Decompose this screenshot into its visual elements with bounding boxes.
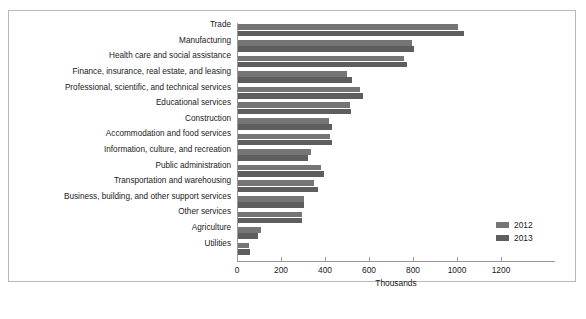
category-label-row: Manufacturing bbox=[11, 33, 235, 49]
category-label: Construction bbox=[185, 114, 231, 123]
bar-group bbox=[238, 117, 555, 133]
bar-group bbox=[238, 148, 555, 164]
x-tick bbox=[413, 257, 414, 262]
bar-2013 bbox=[238, 109, 351, 115]
bar-2013 bbox=[238, 31, 464, 37]
x-tick-label: 0 bbox=[235, 265, 240, 275]
legend-swatch-icon bbox=[496, 235, 509, 241]
category-label-row: Business, building, and other support se… bbox=[11, 189, 235, 205]
bar-group bbox=[238, 70, 555, 86]
category-label-column: TradeManufacturingHealth care and social… bbox=[11, 17, 235, 255]
bar-2012 bbox=[238, 243, 249, 249]
legend-label: 2012 bbox=[514, 220, 533, 230]
category-label-row: Health care and social assistance bbox=[11, 48, 235, 64]
bar-2013 bbox=[238, 124, 332, 130]
bar-2013 bbox=[238, 249, 250, 255]
category-label: Professional, scientific, and technical … bbox=[65, 83, 231, 92]
legend-label: 2013 bbox=[514, 233, 533, 243]
category-label: Trade bbox=[210, 20, 231, 29]
bar-2012 bbox=[238, 212, 302, 218]
bar-2012 bbox=[238, 118, 329, 124]
plot-area: Thousands 020040060080010001200 20122013 bbox=[237, 17, 567, 283]
category-label-row: Professional, scientific, and technical … bbox=[11, 79, 235, 95]
category-label-row: Finance, insurance, real estate, and lea… bbox=[11, 64, 235, 80]
category-label: Information, culture, and recreation bbox=[104, 145, 231, 154]
bar-2013 bbox=[238, 155, 308, 161]
bar-group bbox=[238, 85, 555, 101]
category-label-row: Other services bbox=[11, 204, 235, 220]
bar-2013 bbox=[238, 93, 363, 99]
category-label: Educational services bbox=[156, 98, 231, 107]
bar-group bbox=[238, 54, 555, 70]
category-label-row: Construction bbox=[11, 111, 235, 127]
bar-2012 bbox=[238, 71, 347, 77]
bar-2012 bbox=[238, 149, 311, 155]
legend-item-2013[interactable]: 2013 bbox=[496, 233, 533, 243]
chart-legend: 20122013 bbox=[496, 220, 533, 246]
x-tick bbox=[237, 257, 238, 262]
bar-2012 bbox=[238, 134, 330, 140]
category-label-row: Transportation and warehousing bbox=[11, 173, 235, 189]
category-label: Business, building, and other support se… bbox=[64, 192, 231, 201]
bar-2012 bbox=[238, 24, 458, 30]
bar-2013 bbox=[238, 140, 332, 146]
bar-2013 bbox=[238, 77, 352, 83]
x-tick-label: 800 bbox=[406, 265, 420, 275]
category-label-row: Educational services bbox=[11, 95, 235, 111]
x-axis-title: Thousands bbox=[237, 278, 555, 288]
bar-2013 bbox=[238, 46, 414, 52]
bar-2013 bbox=[238, 233, 258, 239]
category-label: Transportation and warehousing bbox=[114, 176, 231, 185]
x-axis-line bbox=[237, 261, 555, 262]
bar-2013 bbox=[238, 62, 407, 68]
bar-2012 bbox=[238, 102, 350, 108]
bar-2013 bbox=[238, 187, 318, 193]
category-label: Other services bbox=[178, 207, 231, 216]
legend-swatch-icon bbox=[496, 222, 509, 228]
chart-figure: TradeManufacturingHealth care and social… bbox=[8, 10, 576, 282]
bar-group bbox=[238, 179, 555, 195]
x-tick-label: 1200 bbox=[492, 265, 511, 275]
category-label: Finance, insurance, real estate, and lea… bbox=[73, 67, 231, 76]
x-tick bbox=[325, 257, 326, 262]
bar-2013 bbox=[238, 218, 302, 224]
bar-2012 bbox=[238, 87, 360, 93]
bar-group bbox=[238, 39, 555, 55]
category-label-row: Accommodation and food services bbox=[11, 126, 235, 142]
x-tick bbox=[457, 257, 458, 262]
x-tick-label: 1000 bbox=[448, 265, 467, 275]
bar-group bbox=[238, 195, 555, 211]
category-label: Agriculture bbox=[192, 223, 231, 232]
category-label-row: Utilities bbox=[11, 235, 235, 251]
x-tick bbox=[281, 257, 282, 262]
x-axis: Thousands 020040060080010001200 bbox=[237, 261, 555, 291]
x-tick-label: 600 bbox=[362, 265, 376, 275]
category-label: Manufacturing bbox=[179, 36, 231, 45]
bar-group bbox=[238, 132, 555, 148]
bar-2012 bbox=[238, 165, 321, 171]
category-label-row: Trade bbox=[11, 17, 235, 33]
category-label: Utilities bbox=[205, 239, 231, 248]
category-label: Accommodation and food services bbox=[106, 129, 231, 138]
bar-group bbox=[238, 23, 555, 39]
bar-2012 bbox=[238, 227, 261, 233]
bar-group bbox=[238, 101, 555, 117]
bar-2013 bbox=[238, 171, 324, 177]
bar-2012 bbox=[238, 196, 304, 202]
x-tick-label: 400 bbox=[318, 265, 332, 275]
bar-2012 bbox=[238, 56, 404, 62]
bar-2012 bbox=[238, 180, 314, 186]
category-label: Health care and social assistance bbox=[109, 51, 231, 60]
category-label: Public administration bbox=[155, 161, 231, 170]
legend-item-2012[interactable]: 2012 bbox=[496, 220, 533, 230]
x-tick bbox=[369, 257, 370, 262]
x-tick bbox=[501, 257, 502, 262]
bar-2012 bbox=[238, 40, 412, 46]
x-tick-label: 200 bbox=[274, 265, 288, 275]
category-label-row: Information, culture, and recreation bbox=[11, 142, 235, 158]
category-label-row: Agriculture bbox=[11, 220, 235, 236]
bar-2013 bbox=[238, 202, 304, 208]
bar-group bbox=[238, 163, 555, 179]
category-label-row: Public administration bbox=[11, 157, 235, 173]
